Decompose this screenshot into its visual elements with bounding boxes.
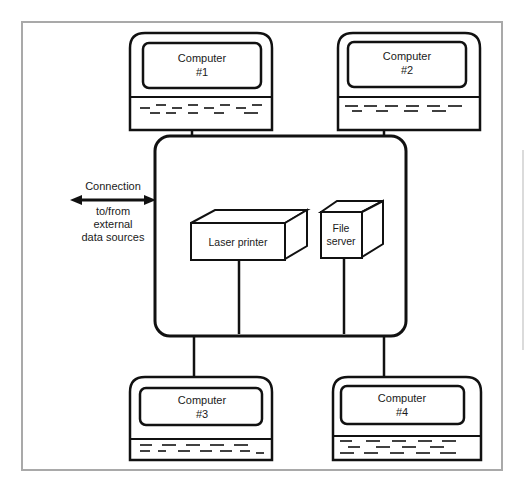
connection-label-line4: data sources <box>82 231 145 243</box>
laser-printer: Laser printer <box>191 210 307 260</box>
computer-label: Computer <box>178 394 227 406</box>
file-server-label-line1: File <box>333 222 350 234</box>
computer-label: Computer <box>178 52 227 64</box>
computer-4: Computer #4 <box>333 377 481 460</box>
computer-number: #2 <box>401 64 413 76</box>
computer-number: #1 <box>196 66 208 78</box>
external-connection: Connection to/from external data sources <box>70 180 156 243</box>
computer-label: Computer <box>378 392 427 404</box>
server-side <box>362 201 383 257</box>
network-diagram: Computer #1 Computer #2 Computer #3 <box>0 0 526 486</box>
connection-label-line2: to/from <box>96 205 130 217</box>
laser-printer-label: Laser printer <box>209 236 268 248</box>
arrow-left-icon <box>70 195 82 205</box>
connection-label: Connection <box>85 180 141 192</box>
file-server-label-line2: server <box>326 235 356 247</box>
computer-number: #4 <box>396 406 408 418</box>
computer-label: Computer <box>383 50 432 62</box>
computer-number: #3 <box>196 408 208 420</box>
file-server: File server <box>321 201 383 258</box>
computer-1: Computer #1 <box>130 33 272 130</box>
computer-2: Computer #2 <box>338 33 480 130</box>
computer-3: Computer #3 <box>130 377 272 460</box>
connection-label-line3: external <box>93 218 132 230</box>
